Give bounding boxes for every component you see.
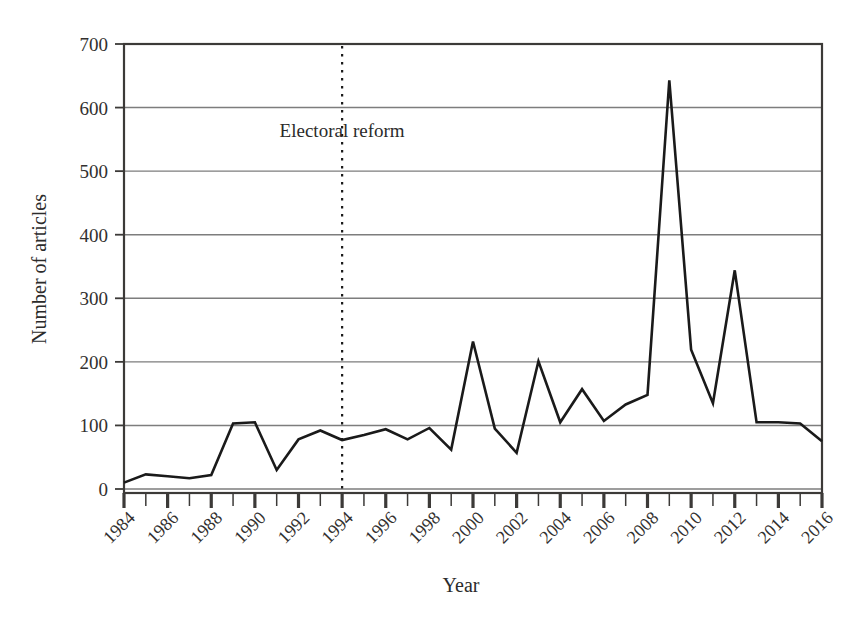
annotation-label-electoral-reform: Electoral reform — [280, 120, 405, 141]
y-tick-label-300: 300 — [80, 288, 109, 309]
y-tick-label-0: 0 — [99, 479, 109, 500]
y-tick-label-500: 500 — [80, 161, 109, 182]
y-tick-label-400: 400 — [80, 225, 109, 246]
line-chart: 0100200300400500600700 19841986198819901… — [0, 0, 868, 622]
y-tick-label-700: 700 — [80, 34, 109, 55]
y-tick-label-600: 600 — [80, 98, 109, 119]
y-axis-title: Number of articles — [28, 194, 50, 344]
x-axis-title: Year — [443, 574, 480, 596]
y-tick-label-200: 200 — [80, 352, 109, 373]
chart-figure: 0100200300400500600700 19841986198819901… — [0, 0, 868, 622]
y-tick-label-100: 100 — [80, 415, 109, 436]
